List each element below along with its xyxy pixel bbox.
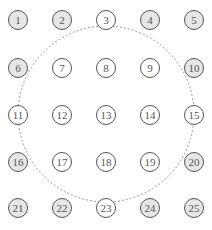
- node-label: 22: [57, 203, 68, 214]
- node-label: 1: [15, 15, 21, 26]
- grid-node: 8: [96, 58, 116, 78]
- grid-node: 12: [52, 105, 72, 125]
- node-label: 5: [191, 15, 197, 26]
- node-label: 8: [103, 63, 109, 74]
- node-label: 11: [13, 110, 24, 121]
- node-label: 12: [57, 110, 68, 121]
- node-label: 25: [189, 203, 200, 214]
- node-label: 23: [101, 203, 112, 214]
- node-label: 16: [13, 157, 24, 168]
- node-label: 19: [145, 157, 156, 168]
- node-label: 13: [101, 110, 112, 121]
- node-label: 18: [101, 157, 112, 168]
- grid-node: 10: [184, 58, 204, 78]
- node-label: 6: [15, 63, 21, 74]
- grid-node: 23: [96, 198, 116, 218]
- grid-node: 4: [140, 10, 160, 30]
- grid-node: 13: [96, 105, 116, 125]
- grid-node: 3: [96, 10, 116, 30]
- grid-node: 14: [140, 105, 160, 125]
- node-label: 15: [189, 110, 200, 121]
- node-label: 20: [189, 157, 200, 168]
- node-label: 24: [145, 203, 156, 214]
- grid-node: 11: [8, 105, 28, 125]
- grid-node: 18: [96, 152, 116, 172]
- grid-node: 17: [52, 152, 72, 172]
- grid-node: 5: [184, 10, 204, 30]
- node-label: 21: [13, 203, 24, 214]
- grid-diagram: 1234567891011121314151617181920212223242…: [0, 0, 212, 230]
- node-label: 2: [59, 15, 65, 26]
- node-label: 10: [189, 63, 200, 74]
- grid-node: 21: [8, 198, 28, 218]
- grid-node: 19: [140, 152, 160, 172]
- node-label: 9: [147, 63, 153, 74]
- grid-node: 15: [184, 105, 204, 125]
- grid-node: 6: [8, 58, 28, 78]
- node-label: 3: [103, 15, 109, 26]
- node-label: 4: [147, 15, 153, 26]
- grid-node: 16: [8, 152, 28, 172]
- grid-node: 2: [52, 10, 72, 30]
- grid-node: 22: [52, 198, 72, 218]
- grid-node: 20: [184, 152, 204, 172]
- grid-node: 9: [140, 58, 160, 78]
- grid-node: 1: [8, 10, 28, 30]
- grid-node: 7: [52, 58, 72, 78]
- grid-node: 24: [140, 198, 160, 218]
- node-label: 14: [145, 110, 156, 121]
- node-label: 7: [59, 63, 65, 74]
- node-label: 17: [57, 157, 68, 168]
- grid-node: 25: [184, 198, 204, 218]
